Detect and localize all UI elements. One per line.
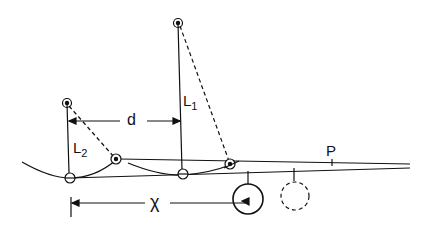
- label-d: d: [127, 112, 136, 128]
- label-x: χ: [150, 193, 159, 211]
- label-P: P: [326, 143, 336, 158]
- track-line-lower: [70, 168, 410, 178]
- pendulum-diagram: [0, 0, 436, 230]
- label-L1: L1: [183, 93, 197, 112]
- pendulum-L1-string: [178, 23, 182, 170]
- wheel-dashed-icon: [281, 182, 309, 210]
- label-L2: L2: [73, 140, 87, 159]
- pendulum-L2-string: [67, 103, 69, 173]
- track-line-upper: [120, 159, 410, 164]
